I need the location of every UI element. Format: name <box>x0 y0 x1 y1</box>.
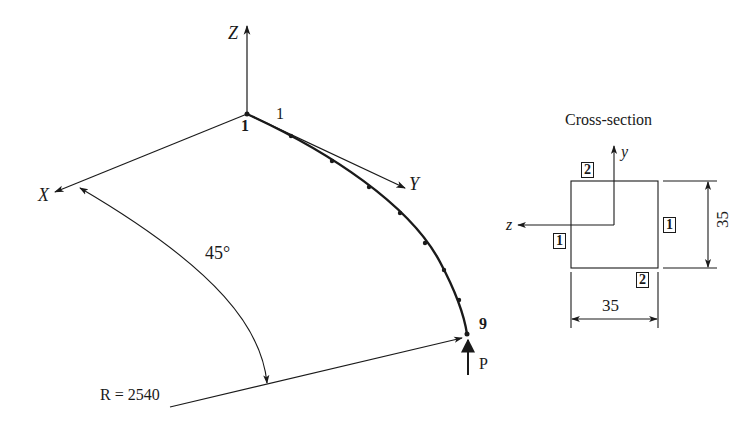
node-3 <box>330 159 334 163</box>
height-dimension-label: 35 <box>714 211 731 228</box>
curved-beam-diagram: Z X Y 1 1 9 P 45° R = 2540 Cross-section… <box>0 0 743 429</box>
element-label: 1 <box>276 106 284 122</box>
node-5 <box>398 211 402 215</box>
width-dimension-label: 35 <box>602 297 619 314</box>
y-axis-label: Y <box>409 175 419 193</box>
node-2 <box>289 134 293 138</box>
local-y-label: y <box>621 144 628 160</box>
node-1 <box>245 112 250 117</box>
load-label: P <box>479 356 488 372</box>
point-label-left: 1 <box>553 233 566 249</box>
cross-section-title: Cross-section <box>565 112 652 128</box>
point-label-bottom: 2 <box>636 272 649 288</box>
local-z-label: z <box>506 217 512 233</box>
global-axes <box>55 26 405 192</box>
start-node-label: 1 <box>241 118 249 134</box>
diagram-graphics <box>0 0 743 429</box>
radius-label: R = 2540 <box>100 387 160 403</box>
node-7 <box>442 268 446 272</box>
radius-line <box>170 338 462 407</box>
angle-arc <box>80 188 267 383</box>
point-label-right: 1 <box>663 217 676 233</box>
x-axis <box>55 114 247 192</box>
point-label-top: 2 <box>581 162 594 178</box>
node-4 <box>367 185 371 189</box>
node-9 <box>465 332 470 337</box>
curved-beam <box>247 114 467 334</box>
z-axis-label: Z <box>228 24 238 42</box>
end-node-label: 9 <box>479 316 487 332</box>
angle-label: 45° <box>205 244 230 262</box>
x-axis-label: X <box>38 186 49 204</box>
node-6 <box>423 241 427 245</box>
beam-nodes <box>245 112 470 337</box>
node-8 <box>457 298 461 302</box>
